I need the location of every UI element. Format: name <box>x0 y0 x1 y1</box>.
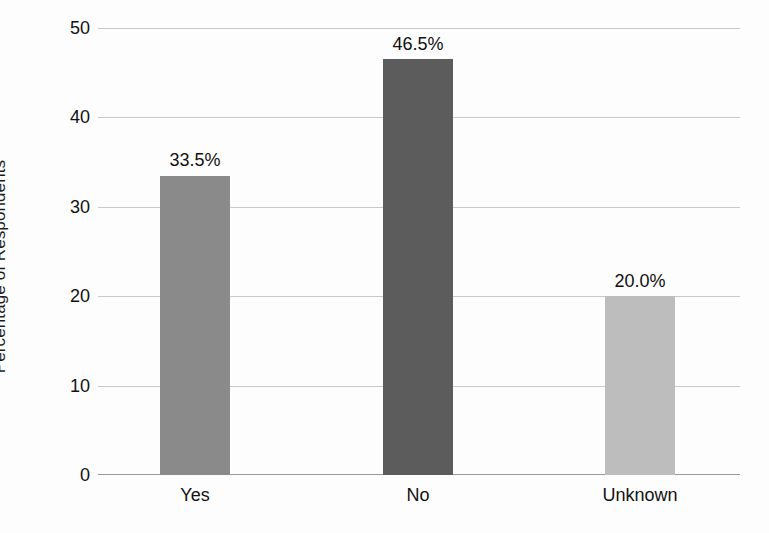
x-axis-tick-labels: Yes No Unknown <box>98 486 740 516</box>
bar-group-unknown: 20.0% <box>605 28 675 475</box>
y-tick-label-10: 10 <box>46 377 90 395</box>
y-axis-tick-labels: 50 40 30 20 10 0 <box>42 0 90 533</box>
plot-area: 33.5% 46.5% 20.0% <box>98 28 740 475</box>
y-tick-label-20: 20 <box>46 287 90 305</box>
x-tick-label-yes: Yes <box>180 486 209 504</box>
bar-yes[interactable] <box>160 176 230 476</box>
bar-value-unknown: 20.0% <box>614 272 665 290</box>
y-tick-label-30: 30 <box>46 198 90 216</box>
bar-group-yes: 33.5% <box>160 28 230 475</box>
bar-value-no: 46.5% <box>392 35 443 53</box>
bar-chart: Percentage of Respondents 50 40 30 20 10… <box>0 0 769 533</box>
y-tick-label-50: 50 <box>46 19 90 37</box>
bar-value-yes: 33.5% <box>169 151 220 169</box>
y-tick-label-0: 0 <box>46 466 90 484</box>
y-tick-label-40: 40 <box>46 108 90 126</box>
bar-group-no: 46.5% <box>383 28 453 475</box>
bar-unknown[interactable] <box>605 296 675 475</box>
x-tick-label-unknown: Unknown <box>602 486 677 504</box>
bars-layer: 33.5% 46.5% 20.0% <box>98 28 740 475</box>
x-tick-label-no: No <box>406 486 429 504</box>
y-axis-title: Percentage of Respondents <box>0 0 40 533</box>
bar-no[interactable] <box>383 59 453 475</box>
